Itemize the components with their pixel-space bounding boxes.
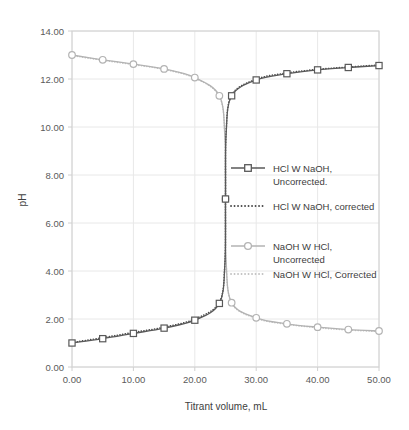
y-tick-label: 8.00: [46, 170, 65, 181]
y-tick-label: 14.00: [40, 26, 64, 37]
data-point-marker-circle: [192, 74, 199, 81]
data-point-marker-circle: [314, 324, 321, 331]
data-point-marker-square: [315, 67, 321, 73]
data-point-marker-circle: [284, 321, 291, 328]
data-point-marker-square: [192, 317, 198, 323]
data-point-marker-square: [161, 325, 167, 331]
data-point-marker-circle: [69, 52, 76, 59]
data-point-marker-square: [229, 93, 235, 99]
data-point-marker-square: [216, 300, 222, 306]
data-point-marker-circle: [161, 66, 168, 73]
legend-label: NaOH W HCl, Corrected: [273, 269, 376, 280]
x-tick-label: 20.00: [183, 374, 207, 385]
data-point-marker-square: [284, 71, 290, 77]
legend-label-line2: Uncorrected: [273, 254, 325, 265]
legend-label: HCl W NaOH,: [273, 163, 332, 174]
legend-marker-circle: [245, 243, 252, 250]
y-tick-label: 12.00: [40, 74, 64, 85]
data-point-marker-circle: [130, 61, 137, 68]
data-point-marker-square: [345, 64, 351, 70]
data-point-marker-square: [222, 196, 228, 202]
x-tick-label: 0.00: [63, 374, 82, 385]
data-point-marker-circle: [253, 315, 260, 322]
data-point-marker-square: [253, 77, 259, 83]
legend-label-line2: Uncorrected.: [273, 176, 327, 187]
y-tick-label: 10.00: [40, 122, 64, 133]
y-axis-title: pH: [17, 194, 28, 207]
data-point-marker-circle: [376, 328, 383, 335]
data-point-marker-square: [130, 330, 136, 336]
data-point-marker-circle: [216, 93, 223, 100]
data-point-marker-square: [69, 340, 75, 346]
data-point-marker-circle: [345, 326, 352, 333]
data-point-marker-circle: [99, 57, 106, 64]
x-tick-label: 50.00: [367, 374, 391, 385]
data-point-marker-circle: [228, 299, 235, 306]
legend-label: HCl W NaOH, corrected: [273, 201, 374, 212]
legend-label: NaOH W HCl,: [273, 241, 332, 252]
y-tick-label: 2.00: [46, 314, 65, 325]
legend-marker-square: [245, 165, 252, 172]
data-point-marker-square: [376, 62, 382, 68]
y-tick-label: 0.00: [46, 362, 65, 373]
x-tick-label: 10.00: [122, 374, 146, 385]
y-tick-label: 4.00: [46, 266, 65, 277]
data-point-marker-square: [100, 336, 106, 342]
x-tick-label: 40.00: [306, 374, 330, 385]
titration-curve-chart: 0.002.004.006.008.0010.0012.0014.00 0.00…: [0, 0, 409, 430]
x-axis-title: Titrant volume, mL: [185, 401, 268, 412]
x-tick-label: 30.00: [244, 374, 268, 385]
chart-canvas: 0.002.004.006.008.0010.0012.0014.00 0.00…: [0, 0, 409, 430]
y-tick-label: 6.00: [46, 218, 65, 229]
